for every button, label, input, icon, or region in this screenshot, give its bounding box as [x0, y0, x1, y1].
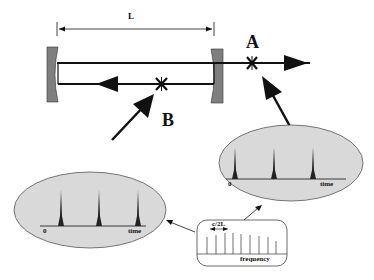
mode-locked-laser-diagram — [0, 0, 374, 280]
right-mirror — [211, 49, 223, 103]
spectrum-to-left-inset-arrow — [166, 220, 195, 232]
frequency-axis-label: frequency — [240, 256, 270, 263]
output-inset-origin: 0 — [228, 181, 232, 188]
intracavity-inset-origin: 0 — [43, 228, 47, 235]
point-b-label: B — [162, 111, 174, 129]
spectrum-to-right-inset-arrow — [244, 205, 262, 220]
output-inset-axis-label: time — [320, 181, 333, 188]
output-pulse-inset — [219, 125, 363, 201]
arrow-to-a — [262, 76, 292, 130]
comb-spacing-label: c/2L — [212, 221, 225, 228]
point-a-label: A — [246, 33, 259, 51]
left-mirror — [47, 47, 58, 102]
arrow-to-b — [112, 94, 154, 140]
length-label: L — [128, 12, 134, 21]
intracavity-inset-axis-label: time — [128, 228, 141, 235]
length-dimension — [57, 22, 214, 36]
intracavity-pulse-inset — [14, 172, 166, 248]
